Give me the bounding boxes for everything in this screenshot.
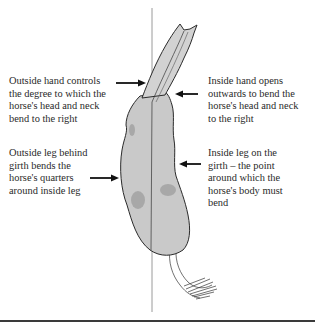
annotation-inside-leg: Inside leg on the girth – the point arou…: [208, 147, 313, 210]
horse-neck-head: [142, 24, 197, 98]
arrow-inside-leg: [179, 161, 201, 168]
tail-icon: [169, 248, 217, 299]
arrow-inside-hand: [175, 91, 198, 98]
horse-body: [121, 92, 190, 255]
annotation-outside-leg: Outside leg behind girth bends the horse…: [9, 147, 129, 197]
annotation-inside-hand: Inside hand opens outwards to bend the h…: [208, 75, 313, 125]
annotation-outside-hand: Outside hand controls the degree to whic…: [9, 75, 129, 125]
bottom-rule: [0, 320, 315, 322]
